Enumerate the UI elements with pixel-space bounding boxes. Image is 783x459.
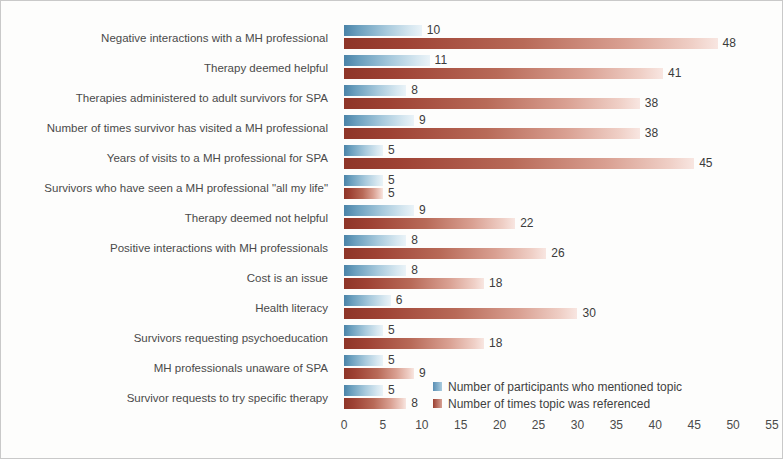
bar-value-label: 5 [383, 355, 395, 366]
chart-bar-group: 630 [344, 293, 772, 323]
bar-fill [344, 308, 577, 319]
chart-bar-group: 545 [344, 143, 772, 173]
bar-value-label: 5 [383, 145, 395, 156]
bar-fill [344, 295, 391, 306]
x-tick-label: 50 [726, 415, 739, 435]
bar-red: 26 [344, 248, 565, 259]
category-label: MH professionals unaware of SPA [154, 353, 328, 383]
bar-blue: 5 [344, 385, 395, 396]
bar-value-label: 11 [430, 55, 447, 66]
bar-fill [344, 338, 484, 349]
bar-red: 48 [344, 38, 736, 49]
category-label: Survivors who have seen a MH professiona… [44, 173, 328, 203]
bar-value-label: 18 [484, 338, 502, 349]
category-label: Years of visits to a MH professional for… [107, 143, 328, 173]
x-tick-label: 55 [765, 415, 778, 435]
bar-red: 30 [344, 308, 596, 319]
x-tick-label: 35 [610, 415, 623, 435]
legend-label-participants: Number of participants who mentioned top… [448, 380, 682, 394]
bar-value-label: 30 [577, 308, 595, 319]
bar-value-label: 8 [406, 265, 418, 276]
chart-bar-group: 1048 [344, 23, 772, 53]
bar-red: 41 [344, 68, 681, 79]
category-label: Health literacy [255, 293, 328, 323]
bar-blue: 8 [344, 85, 418, 96]
bar-fill [344, 265, 406, 276]
x-tick-label: 30 [571, 415, 584, 435]
bar-value-label: 5 [383, 385, 395, 396]
bar-fill [344, 175, 383, 186]
chart-bar-group: 518 [344, 323, 772, 353]
x-tick-label: 0 [341, 415, 348, 435]
chart-legend: Number of participants who mentioned top… [433, 379, 682, 413]
bar-value-label: 38 [640, 98, 658, 109]
bar-fill [344, 85, 406, 96]
bar-fill [344, 38, 718, 49]
bar-fill [344, 248, 546, 259]
category-axis: Negative interactions with a MH professi… [1, 23, 336, 413]
bar-value-label: 9 [414, 205, 426, 216]
category-label: Cost is an issue [247, 263, 328, 293]
x-tick-label: 15 [454, 415, 467, 435]
x-tick-label: 25 [532, 415, 545, 435]
category-label: Survivors requesting psychoeducation [134, 323, 328, 353]
category-label: Negative interactions with a MH professi… [101, 23, 328, 53]
bar-fill [344, 235, 406, 246]
bar-value-label: 5 [383, 175, 395, 186]
bar-blue: 9 [344, 115, 426, 126]
bar-blue: 10 [344, 25, 440, 36]
bar-red: 5 [344, 188, 395, 199]
bar-value-label: 8 [406, 235, 418, 246]
bar-value-label: 8 [406, 398, 418, 409]
bar-blue: 6 [344, 295, 402, 306]
bar-value-label: 9 [414, 115, 426, 126]
bar-blue: 5 [344, 325, 395, 336]
bar-value-label: 41 [663, 68, 681, 79]
bar-fill [344, 98, 640, 109]
bar-red: 45 [344, 158, 713, 169]
bar-red: 18 [344, 338, 502, 349]
bar-blue: 11 [344, 55, 447, 66]
bar-blue: 5 [344, 175, 395, 186]
bar-blue: 9 [344, 205, 426, 216]
category-label: Therapy deemed not helpful [185, 203, 328, 233]
x-tick-label: 45 [687, 415, 700, 435]
bar-fill [344, 385, 383, 396]
bar-value-label: 5 [383, 325, 395, 336]
bar-value-label: 8 [406, 85, 418, 96]
category-label: Positive interactions with MH profession… [110, 233, 328, 263]
chart-bar-group: 922 [344, 203, 772, 233]
bar-red: 18 [344, 278, 502, 289]
x-tick-label: 20 [493, 415, 506, 435]
chart-bar-group: 55 [344, 173, 772, 203]
bar-fill [344, 205, 414, 216]
category-label: Survivor requests to try specific therap… [127, 383, 328, 413]
chart-bar-group: 826 [344, 233, 772, 263]
bar-red: 8 [344, 398, 418, 409]
bar-value-label: 18 [484, 278, 502, 289]
bar-fill [344, 355, 383, 366]
bar-fill [344, 145, 383, 156]
bar-value-label: 38 [640, 128, 658, 139]
bar-red: 9 [344, 368, 426, 379]
bar-fill [344, 128, 640, 139]
bar-red: 38 [344, 128, 658, 139]
bar-value-label: 22 [515, 218, 533, 229]
bar-value-label: 6 [391, 295, 403, 306]
bar-fill [344, 158, 694, 169]
bar-blue: 8 [344, 265, 418, 276]
category-label: Therapies administered to adult survivor… [76, 83, 328, 113]
bar-fill [344, 218, 515, 229]
legend-label-references: Number of times topic was referenced [448, 397, 650, 411]
bar-value-label: 9 [414, 368, 426, 379]
legend-swatch-blue-icon [433, 382, 442, 391]
bar-red: 22 [344, 218, 534, 229]
bar-value-label: 26 [546, 248, 564, 259]
bar-fill [344, 115, 414, 126]
bar-value-label: 45 [694, 158, 712, 169]
bar-fill [344, 25, 422, 36]
chart-bar-group: 838 [344, 83, 772, 113]
bar-blue: 5 [344, 145, 395, 156]
bar-fill [344, 55, 430, 66]
bar-fill [344, 398, 406, 409]
